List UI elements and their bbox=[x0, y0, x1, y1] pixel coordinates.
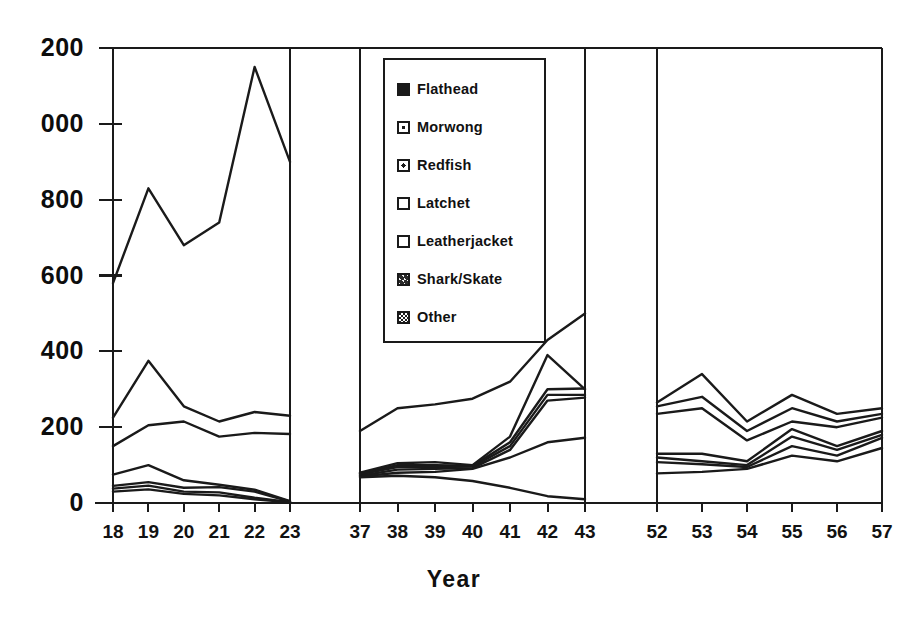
x-tick-label: 19 bbox=[138, 522, 159, 541]
x-tick-label: 56 bbox=[826, 522, 847, 541]
panel-frame-1 bbox=[113, 48, 290, 503]
x-tick-label: 53 bbox=[691, 522, 712, 541]
x-tick-label: 41 bbox=[499, 522, 520, 541]
legend-swatch-icon bbox=[397, 159, 410, 172]
y-tick-label: 800 bbox=[0, 187, 84, 212]
y-tick-label: 0 bbox=[0, 490, 84, 515]
x-tick-label: 18 bbox=[102, 522, 123, 541]
legend-swatch-icon bbox=[397, 235, 410, 248]
series-line-latchet bbox=[360, 395, 585, 474]
legend: FlatheadMorwongRedfishLatchetLeatherjack… bbox=[383, 58, 546, 343]
legend-swatch-icon bbox=[397, 273, 410, 286]
series-line-flathead bbox=[657, 374, 882, 421]
x-tick-label: 38 bbox=[387, 522, 408, 541]
x-tick-label: 37 bbox=[349, 522, 370, 541]
x-tick-label: 23 bbox=[279, 522, 300, 541]
legend-item-redfish: Redfish bbox=[397, 146, 544, 184]
legend-label: Flathead bbox=[417, 81, 478, 97]
y-tick-label: 000 bbox=[0, 111, 84, 136]
x-tick-label: 54 bbox=[736, 522, 757, 541]
legend-swatch-icon bbox=[397, 83, 410, 96]
legend-label: Other bbox=[417, 309, 457, 325]
y-tick-label: 600 bbox=[0, 263, 84, 288]
x-tick-label: 39 bbox=[424, 522, 445, 541]
legend-item-latchet: Latchet bbox=[397, 184, 544, 222]
legend-label: Shark/Skate bbox=[417, 271, 502, 287]
series-line-morwong bbox=[360, 355, 585, 473]
legend-item-other: Other bbox=[397, 298, 544, 336]
x-tick-label: 43 bbox=[574, 522, 595, 541]
x-tick-label: 22 bbox=[244, 522, 265, 541]
series-line-morwong bbox=[113, 361, 290, 422]
y-tick-label: 400 bbox=[0, 338, 84, 363]
x-tick-label: 40 bbox=[462, 522, 483, 541]
legend-label: Morwong bbox=[417, 119, 483, 135]
series-line-flathead bbox=[113, 67, 290, 283]
legend-item-leatherjacket: Leatherjacket bbox=[397, 222, 544, 260]
legend-swatch-icon bbox=[397, 121, 410, 134]
legend-label: Redfish bbox=[417, 157, 472, 173]
x-tick-label: 20 bbox=[173, 522, 194, 541]
line-chart: 2000008006004002000 18192021222337383940… bbox=[0, 0, 908, 626]
x-tick-label: 52 bbox=[646, 522, 667, 541]
panel-frame-3 bbox=[657, 48, 882, 503]
legend-swatch-icon bbox=[397, 197, 410, 210]
series-group-panel-3 bbox=[657, 374, 882, 473]
series-line-redfish bbox=[113, 422, 290, 447]
y-axis-tick-labels: 2000008006004002000 bbox=[0, 0, 84, 626]
x-tick-label: 42 bbox=[537, 522, 558, 541]
legend-item-flathead: Flathead bbox=[397, 70, 544, 108]
y-tick-label: 200 bbox=[0, 414, 84, 439]
legend-label: Leatherjacket bbox=[417, 233, 513, 249]
legend-label: Latchet bbox=[417, 195, 470, 211]
x-tick-label: 57 bbox=[871, 522, 892, 541]
series-line-other bbox=[360, 476, 585, 500]
y-tick-label: 200 bbox=[0, 35, 84, 60]
x-tick-label: 55 bbox=[781, 522, 802, 541]
x-tick-label: 21 bbox=[209, 522, 230, 541]
x-axis-title: Year bbox=[0, 566, 908, 593]
legend-swatch-icon bbox=[397, 311, 410, 324]
legend-item-shark-skate: Shark/Skate bbox=[397, 260, 544, 298]
series-group-panel-1 bbox=[113, 67, 290, 502]
legend-item-morwong: Morwong bbox=[397, 108, 544, 146]
